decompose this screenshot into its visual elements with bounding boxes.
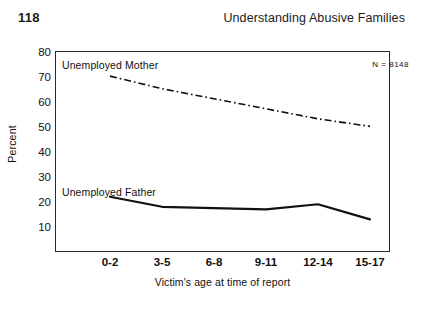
series-label-unemployed-father: Unemployed Father bbox=[62, 186, 156, 198]
series-label-unemployed-mother: Unemployed Mother bbox=[62, 59, 158, 71]
series-line-unemployed-mother bbox=[110, 76, 370, 126]
y-tick-label-60: 60 bbox=[5, 97, 51, 109]
series-line-unemployed-father bbox=[110, 197, 370, 220]
y-tick-label-20: 20 bbox=[5, 197, 51, 209]
x-tick-label-15-17: 15-17 bbox=[340, 257, 400, 269]
page-header: 118 Understanding Abusive Families bbox=[0, 0, 421, 34]
y-axis-title: Percent bbox=[6, 114, 18, 174]
x-tick-label-6-8: 6-8 bbox=[184, 257, 244, 269]
x-tick-label-3-5: 3-5 bbox=[132, 257, 192, 269]
chart-plot-area bbox=[55, 51, 390, 252]
y-tick-label-70: 70 bbox=[5, 72, 51, 84]
y-tick-label-80: 80 bbox=[5, 47, 51, 59]
x-tick-label-12-14: 12-14 bbox=[288, 257, 348, 269]
x-axis: 0-2 3-5 6-8 9-11 12-14 15-17 bbox=[55, 257, 390, 275]
sample-size-annotation: N = 8148 bbox=[372, 60, 409, 69]
y-tick-label-10: 10 bbox=[5, 222, 51, 234]
x-tick-label-0-2: 0-2 bbox=[80, 257, 140, 269]
x-tick-label-9-11: 9-11 bbox=[236, 257, 296, 269]
figure-line-chart: 80 70 60 50 40 30 20 10 Percent Unemploy… bbox=[0, 34, 421, 317]
page-number: 118 bbox=[18, 10, 40, 25]
y-axis: 80 70 60 50 40 30 20 10 Percent bbox=[0, 34, 51, 317]
x-axis-title: Victim's age at time of report bbox=[55, 276, 390, 288]
running-head: Understanding Abusive Families bbox=[223, 11, 405, 25]
